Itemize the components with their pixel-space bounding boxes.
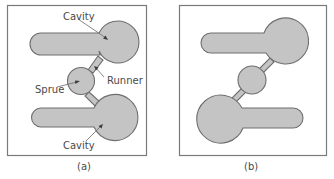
mold-layout-diagram: Cavity Runner Sprue Cavity (a) (b) (0, 0, 334, 179)
label-cavity-bottom: Cavity (63, 140, 95, 151)
label-sprue: Sprue (35, 84, 64, 95)
sprue-b (238, 66, 266, 94)
panel-a: Cavity Runner Sprue Cavity (a) (8, 6, 147, 173)
caption-a: (a) (77, 161, 91, 172)
label-runner: Runner (107, 75, 144, 86)
panel-b: (b) (180, 6, 327, 173)
label-cavity-top: Cavity (63, 11, 95, 22)
caption-b: (b) (244, 161, 258, 172)
sprue (68, 68, 95, 95)
